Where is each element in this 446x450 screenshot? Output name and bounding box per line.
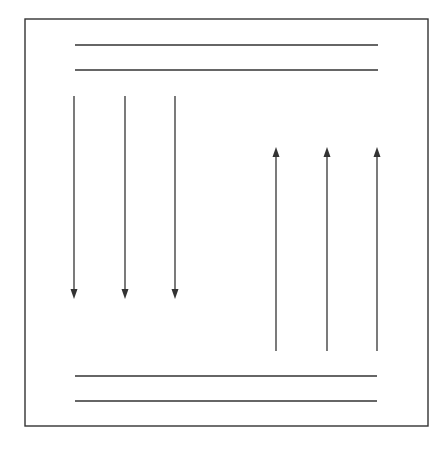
- arrowhead-up-icon: [273, 147, 280, 157]
- arrowhead-up-icon: [374, 147, 381, 157]
- arrowhead-down-icon: [172, 289, 179, 299]
- arrowhead-down-icon: [122, 289, 129, 299]
- arrowhead-up-icon: [324, 147, 331, 157]
- arrowhead-down-icon: [71, 289, 78, 299]
- flow-diagram: [0, 0, 446, 450]
- outer-frame: [25, 19, 428, 426]
